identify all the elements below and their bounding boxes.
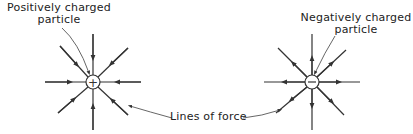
positive-particle-label: Positively charged particle [4,2,114,26]
positive-sign: + [88,76,98,90]
negative-particle-label: Negatively charged particle [300,12,412,36]
negative-particle-field [264,34,360,130]
positive-label-line2: particle [4,14,114,26]
negative-label-line2: particle [300,24,412,36]
lines-of-force-label: Lines of force [170,111,246,123]
